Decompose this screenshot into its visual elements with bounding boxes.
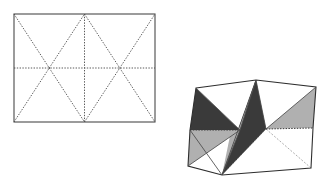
figure-container (0, 0, 329, 196)
folded-form-panel (188, 80, 316, 175)
geometry-figure-canvas (0, 0, 329, 196)
